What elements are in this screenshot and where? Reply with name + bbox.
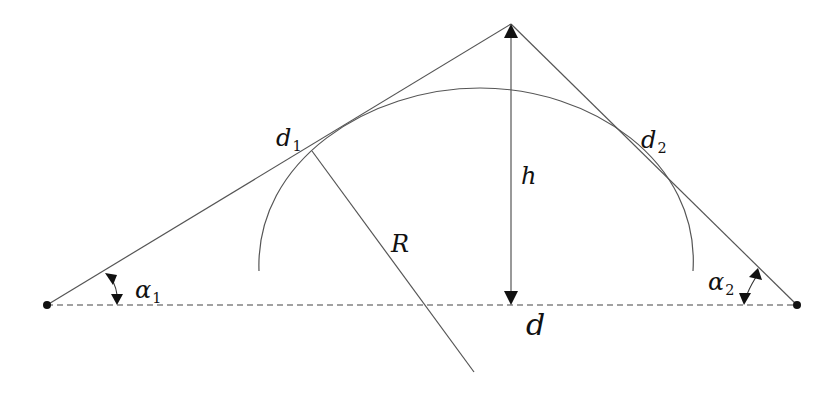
left-endpoint bbox=[43, 301, 51, 309]
label-d1-sub: 1 bbox=[292, 138, 301, 154]
label-R: R bbox=[391, 232, 409, 256]
label-alpha2: α2 bbox=[708, 270, 734, 297]
alpha1-arrow-top bbox=[105, 273, 117, 285]
label-alpha2-main: α bbox=[708, 268, 724, 296]
radius-line bbox=[312, 151, 474, 372]
label-alpha1: α1 bbox=[135, 278, 161, 305]
label-d1: d1 bbox=[276, 126, 302, 153]
label-h: h bbox=[521, 164, 536, 188]
label-alpha2-sub: 2 bbox=[725, 282, 734, 298]
diagram-canvas bbox=[0, 0, 836, 397]
label-d: d bbox=[526, 310, 545, 340]
label-alpha1-sub: 1 bbox=[152, 290, 161, 306]
alpha1-arrow-bottom bbox=[111, 294, 123, 305]
label-R-main: R bbox=[391, 230, 409, 258]
circular-arc bbox=[259, 88, 693, 271]
label-d-main: d bbox=[526, 307, 545, 342]
label-d2: d2 bbox=[641, 128, 667, 155]
label-d2-main: d bbox=[641, 126, 656, 154]
alpha2-arrow-top bbox=[749, 268, 762, 280]
label-d1-main: d bbox=[276, 124, 291, 152]
right-tangent-line bbox=[511, 24, 797, 305]
label-alpha1-main: α bbox=[135, 276, 151, 304]
right-endpoint bbox=[793, 301, 801, 309]
alpha2-arrow-bottom bbox=[739, 293, 751, 305]
left-tangent-line bbox=[47, 24, 511, 305]
label-h-main: h bbox=[521, 162, 536, 190]
label-d2-sub: 2 bbox=[657, 140, 666, 156]
height-arrow-bottom-head bbox=[504, 291, 518, 305]
height-arrow-top-head bbox=[504, 24, 518, 38]
